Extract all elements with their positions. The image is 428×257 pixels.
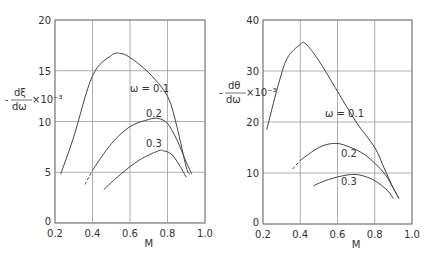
- curve-label: 0.3: [341, 176, 357, 187]
- curve-0-1: [61, 53, 190, 174]
- y-tick-label: 0: [45, 216, 51, 227]
- x-tick-label: 1.0: [404, 229, 420, 240]
- curve-label: ω = 0.1: [325, 108, 364, 119]
- y-tick-label: 10: [38, 117, 51, 128]
- curve-label: 0.3: [146, 138, 162, 149]
- chart-canvas: 0.20.40.60.81.005101520Mdξ-dω×10⁻³ω = 0.…: [0, 0, 428, 257]
- y-tick-label: 20: [246, 117, 259, 128]
- y-tick-label: 5: [45, 167, 51, 178]
- x-tick-label: 0.6: [122, 228, 138, 239]
- x-tick-label: 0.2: [47, 228, 63, 239]
- y-tick-label: 15: [38, 66, 51, 77]
- x-tick-label: 0.6: [330, 229, 346, 240]
- x-axis-label: M: [352, 239, 361, 250]
- svg-text:dω: dω: [226, 94, 241, 105]
- svg-text:dθ: dθ: [228, 80, 240, 91]
- curve-extrapolated-segment: [293, 160, 300, 169]
- y-axis-label: dθ-dω×10⁻³: [219, 80, 276, 105]
- right-plot: 0.20.40.60.81.0010203040Mdθ-dω×10⁻³ω = 0…: [219, 15, 420, 250]
- svg-text:-: -: [219, 87, 223, 98]
- y-tick-label: 20: [38, 15, 51, 26]
- svg-text:dω: dω: [12, 101, 27, 112]
- x-tick-label: 0.4: [85, 228, 101, 239]
- curve-label: ω = 0.1: [130, 83, 169, 94]
- y-tick-label: 10: [246, 168, 259, 179]
- svg-text:×10⁻³: ×10⁻³: [246, 87, 276, 98]
- x-tick-label: 0.2: [255, 229, 271, 240]
- left-plot: 0.20.40.60.81.005101520Mdξ-dω×10⁻³ω = 0.…: [5, 15, 213, 249]
- x-tick-label: 0.4: [292, 229, 308, 240]
- svg-text:dξ: dξ: [14, 87, 26, 98]
- y-tick-label: 30: [246, 66, 259, 77]
- curve-label: 0.2: [341, 148, 357, 159]
- svg-text:-: -: [5, 94, 9, 105]
- x-axis-label: M: [144, 238, 153, 249]
- x-tick-label: 0.8: [367, 229, 383, 240]
- curve-0-3: [104, 150, 187, 189]
- y-tick-label: 40: [246, 15, 259, 26]
- y-axis-label: dξ-dω×10⁻³: [5, 87, 62, 112]
- curve-label: 0.2: [146, 108, 162, 119]
- curve-0-1: [267, 42, 399, 198]
- svg-text:×10⁻³: ×10⁻³: [32, 94, 62, 105]
- x-tick-label: 0.8: [160, 228, 176, 239]
- y-tick-label: 0: [253, 217, 259, 228]
- x-tick-label: 1.0: [197, 228, 213, 239]
